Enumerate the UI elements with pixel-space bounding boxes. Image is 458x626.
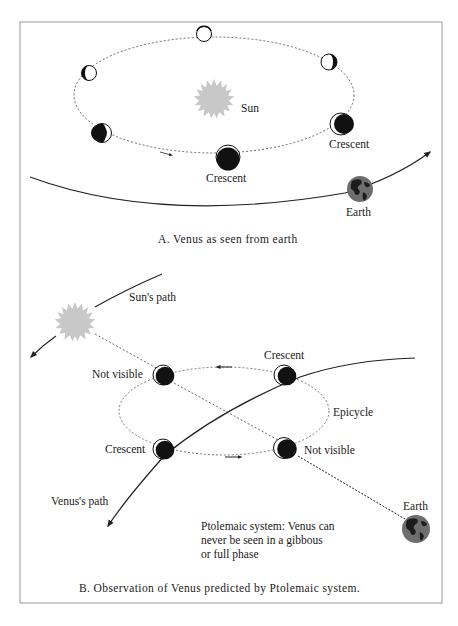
caption-b: B. Observation of Venus predicted by Pto… [79, 582, 360, 595]
crescent-bottom-label: Crescent [206, 172, 247, 184]
sun-icon [194, 79, 234, 119]
venus-crescent-bottom-icon [216, 145, 240, 171]
sightline-sun-earth [95, 334, 278, 440]
earth-icon [347, 176, 373, 202]
earth-label-a: Earth [346, 206, 371, 218]
panel-b: Sun's path Epicycle Venus's path Not vis… [31, 274, 430, 595]
venus-full-icon [197, 26, 212, 41]
venus-phases-figure: Sun Crescent [0, 0, 458, 626]
crescent-left-label: Crescent [105, 443, 146, 455]
ptolemaic-note-line-2: never be seen in a gibbous [201, 534, 323, 547]
epicycle [119, 367, 329, 455]
venus-path [108, 358, 415, 526]
ptolemaic-note-line-1: Ptolemaic system: Venus can [201, 520, 335, 533]
sun-icon-b [55, 302, 95, 342]
venus-gibbous-left-icon [82, 66, 97, 81]
sightline-venus-earth [298, 456, 405, 519]
earth-icon-b [402, 515, 430, 543]
venus-not-visible-left-icon [153, 365, 174, 385]
caption-a: A. Venus as seen from earth [158, 233, 298, 245]
suns-path-label: Sun's path [129, 291, 176, 304]
earth-label-b: Earth [403, 500, 428, 512]
venus-path-label: Venus's path [51, 495, 109, 508]
panel-a: Sun Crescent [30, 26, 430, 245]
venus-crescent-right-icon [330, 113, 354, 135]
venus-crescent-top-icon [274, 365, 296, 385]
venus-not-visible-right-icon [274, 438, 297, 459]
crescent-top-label: Crescent [264, 349, 305, 361]
venus-gibbous-right-icon [321, 54, 337, 70]
epicycle-label: Epicycle [333, 406, 373, 419]
ptolemaic-note-line-3: or full phase [201, 548, 258, 561]
venus-crescent-left-icon [91, 124, 112, 143]
not-visible-left-label: Not visible [92, 368, 143, 380]
crescent-right-label: Crescent [329, 138, 370, 150]
venus-crescent-left-b-icon [153, 439, 174, 459]
sun-label: Sun [241, 102, 259, 114]
orbit-direction-arrow [160, 152, 171, 155]
suns-path-tail [31, 336, 56, 357]
not-visible-right-label: Not visible [304, 444, 355, 456]
